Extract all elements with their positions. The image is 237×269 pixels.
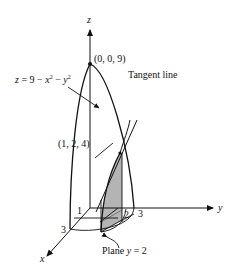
paraboloid-diagram: z y x (0, 0, 9) Tangent line (1, 2, 4) z… bbox=[0, 0, 237, 269]
tick-x1: 1 bbox=[77, 205, 82, 216]
tick-y3: 3 bbox=[138, 208, 143, 219]
eq-mid: = 9 − bbox=[19, 74, 45, 85]
z-axis-label: z bbox=[86, 14, 91, 25]
eq-minus: − bbox=[53, 74, 64, 85]
tangent-label: Tangent line bbox=[128, 69, 178, 80]
eq-sup-y: 2 bbox=[68, 74, 71, 80]
y-axis-label: y bbox=[217, 202, 223, 213]
plane-eq: = 2 bbox=[131, 245, 147, 256]
tangent-point bbox=[118, 151, 121, 154]
tick-y2: 2 bbox=[124, 209, 129, 220]
surface-equation-label: z = 9 − x2 − y2 bbox=[14, 74, 71, 85]
x-axis-label: x bbox=[39, 253, 45, 264]
tick-x3: 3 bbox=[61, 224, 66, 235]
plane-word: Plane bbox=[102, 245, 127, 256]
plane-label: Plane y = 2 bbox=[102, 245, 147, 256]
x-axis bbox=[47, 208, 90, 256]
point-label: (1, 2, 4) bbox=[58, 138, 90, 150]
tangent-label-leader bbox=[136, 104, 137, 122]
peak-label: (0, 0, 9) bbox=[94, 53, 126, 65]
surface-label-arrow bbox=[68, 87, 99, 108]
point-label-arrow bbox=[95, 143, 113, 158]
peak-point bbox=[88, 62, 92, 66]
